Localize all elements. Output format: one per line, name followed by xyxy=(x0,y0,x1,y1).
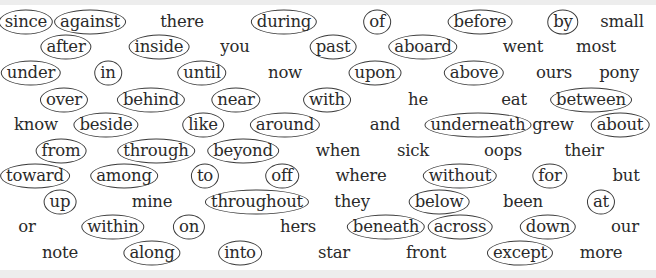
plain-word: but xyxy=(612,167,639,185)
plain-word: when xyxy=(316,142,360,160)
circled-preposition-word: like xyxy=(182,113,224,138)
circled-preposition-word: within xyxy=(81,215,144,240)
circled-preposition-word: without xyxy=(423,164,497,189)
plain-word: grew xyxy=(532,116,574,134)
circled-preposition-word: aboard xyxy=(388,35,457,60)
plain-word: and xyxy=(370,116,400,134)
circled-preposition-word: up xyxy=(44,190,77,215)
plain-word: their xyxy=(564,142,603,160)
circled-preposition-word: beside xyxy=(73,113,138,138)
circled-preposition-word: to xyxy=(191,164,219,189)
circled-preposition-word: throughout xyxy=(205,190,309,215)
circled-preposition-word: on xyxy=(173,215,205,240)
circled-preposition-word: off xyxy=(265,164,299,189)
circled-preposition-word: below xyxy=(409,190,470,215)
circled-preposition-word: beneath xyxy=(347,215,425,240)
plain-word: they xyxy=(334,193,370,211)
circled-preposition-word: among xyxy=(90,164,158,189)
plain-word: now xyxy=(268,64,302,82)
circled-preposition-word: before xyxy=(448,10,513,35)
circled-preposition-word: except xyxy=(487,241,553,266)
circled-preposition-word: at xyxy=(587,190,615,215)
circled-preposition-word: against xyxy=(54,10,126,35)
plain-word: sick xyxy=(397,142,429,160)
circled-preposition-word: during xyxy=(251,10,317,35)
circled-preposition-word: behind xyxy=(117,88,185,113)
plain-word: small xyxy=(600,13,644,31)
circled-preposition-word: by xyxy=(547,10,578,35)
circled-preposition-word: down xyxy=(520,215,576,240)
circled-preposition-word: under xyxy=(1,61,61,86)
circled-preposition-word: inside xyxy=(129,35,190,60)
plain-word: note xyxy=(42,244,78,262)
plain-word: our xyxy=(611,218,639,236)
plain-word: oops xyxy=(484,142,522,160)
plain-word: been xyxy=(503,193,543,211)
circled-preposition-word: upon xyxy=(349,61,402,86)
circled-preposition-word: around xyxy=(250,113,320,138)
circled-preposition-word: beyond xyxy=(207,139,279,164)
circled-preposition-word: of xyxy=(363,10,391,35)
circled-preposition-word: after xyxy=(40,35,91,60)
circled-preposition-word: underneath xyxy=(425,113,532,138)
circled-preposition-word: past xyxy=(310,35,357,60)
plain-word: eat xyxy=(501,91,527,109)
plain-word: front xyxy=(406,244,446,262)
circled-preposition-word: over xyxy=(40,88,88,113)
circled-preposition-word: since xyxy=(0,10,53,35)
plain-word: more xyxy=(580,244,622,262)
circled-preposition-word: from xyxy=(36,139,87,164)
plain-word: hers xyxy=(280,218,316,236)
plain-word: where xyxy=(335,167,386,185)
bottom-page-edge xyxy=(0,270,656,278)
plain-word: know xyxy=(14,116,58,134)
plain-word: mine xyxy=(132,193,173,211)
circled-preposition-word: near xyxy=(211,88,260,113)
preposition-worksheet: sinceagainstthereduringofbeforebysmallaf… xyxy=(0,0,656,278)
plain-word: pony xyxy=(599,64,639,82)
circled-preposition-word: in xyxy=(94,61,122,86)
circled-preposition-word: through xyxy=(117,139,195,164)
circled-preposition-word: with xyxy=(303,88,351,113)
circled-preposition-word: until xyxy=(177,61,226,86)
circled-preposition-word: for xyxy=(532,164,567,189)
plain-word: there xyxy=(160,13,204,31)
circled-preposition-word: toward xyxy=(0,164,70,189)
plain-word: ours xyxy=(536,64,572,82)
plain-word: went xyxy=(503,38,543,56)
circled-preposition-word: about xyxy=(591,113,650,138)
circled-preposition-word: across xyxy=(428,215,493,240)
circled-preposition-word: into xyxy=(218,241,262,266)
plain-word: he xyxy=(408,91,428,109)
circled-preposition-word: between xyxy=(550,88,632,113)
plain-word: most xyxy=(576,38,616,56)
plain-word: you xyxy=(220,38,249,56)
plain-word: star xyxy=(318,244,350,262)
plain-word: or xyxy=(18,218,35,236)
circled-preposition-word: above xyxy=(444,61,504,86)
circled-preposition-word: along xyxy=(123,241,180,266)
